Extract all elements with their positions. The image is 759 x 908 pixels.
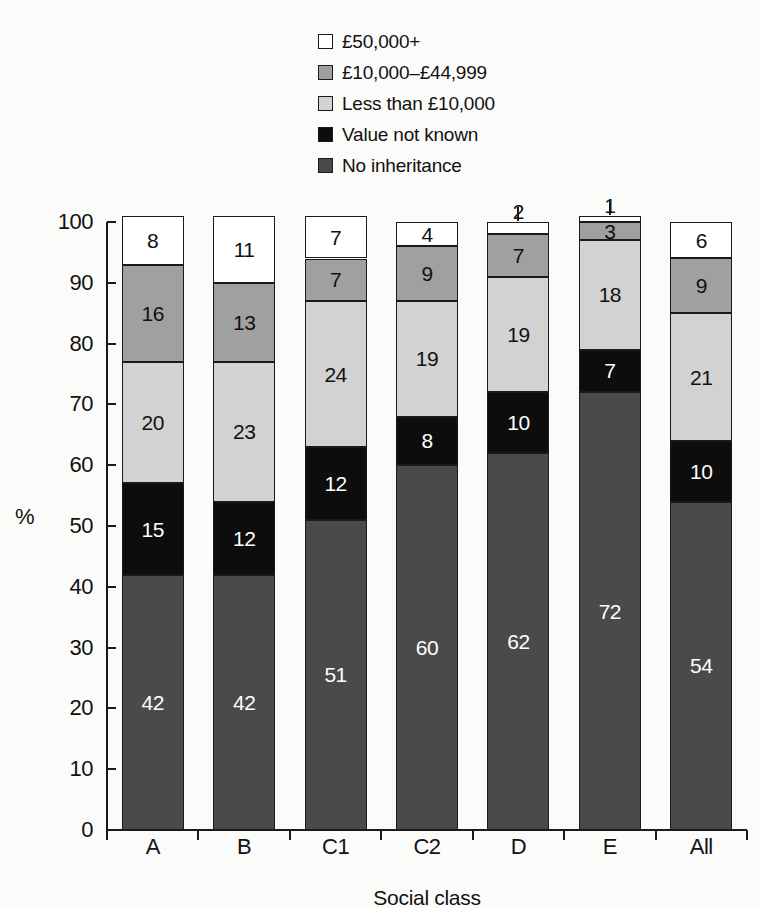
segment-value-label: 60 — [416, 637, 438, 658]
bar-segment: 24 — [305, 301, 367, 447]
bar-segment: 7 — [305, 259, 367, 302]
x-axis-tick — [106, 830, 108, 840]
bar-All: 54102196 — [670, 222, 732, 830]
x-axis-tick — [655, 830, 657, 840]
bar-segment: 2 — [487, 222, 549, 234]
y-tick-label: 40 — [23, 573, 93, 601]
segment-value-label: 12 — [324, 473, 346, 494]
y-tick-mark — [107, 464, 116, 466]
segment-value-label: 6 — [696, 230, 707, 251]
segment-value-label: 51 — [324, 664, 346, 685]
y-tick-mark — [107, 586, 116, 588]
bar-segment: 8 — [122, 216, 184, 265]
bar-segment: 10 — [487, 392, 549, 453]
bar-segment: 9 — [396, 246, 458, 301]
bar-segment: 7 — [487, 234, 549, 277]
y-tick-mark — [107, 525, 116, 527]
bar-segment: 3 — [579, 222, 641, 240]
legend-label: £50,000+ — [342, 32, 420, 51]
segment-value-label: 16 — [142, 303, 164, 324]
legend-swatch-icon — [318, 127, 333, 142]
y-tick-label: 20 — [23, 694, 93, 722]
segment-value-label: 11 — [234, 239, 255, 260]
bar-segment: 19 — [487, 277, 549, 393]
segment-value-label: 9 — [421, 263, 432, 284]
bar-segment: 9 — [670, 258, 732, 313]
bar-segment: 19 — [396, 301, 458, 417]
bar-segment: 7 — [305, 216, 367, 259]
bar-segment: 51 — [305, 520, 367, 830]
segment-value-label: 13 — [233, 312, 255, 333]
legend-item: Value not known — [318, 119, 495, 150]
y-tick-label: 0 — [23, 816, 93, 844]
y-tick-mark — [107, 403, 116, 405]
segment-value-label: 7 — [513, 245, 524, 266]
x-axis-label-C2: C2 — [377, 834, 477, 860]
x-axis-label-B: B — [194, 834, 294, 860]
bar-segment: 18 — [579, 240, 641, 349]
segment-value-label: 21 — [690, 367, 712, 388]
y-tick-mark — [107, 343, 116, 345]
y-tick-label: 30 — [23, 634, 93, 662]
y-tick-mark — [107, 829, 116, 831]
bar-segment: 10 — [670, 441, 732, 502]
segment-value-label: 4 — [421, 224, 432, 245]
segment-value-label: 62 — [507, 631, 529, 652]
x-axis-tick — [197, 830, 199, 840]
x-axis-tick — [472, 830, 474, 840]
segment-value-label: 8 — [147, 230, 158, 251]
segment-value-label: 72 — [599, 601, 621, 622]
bar-segment: 72 — [579, 392, 641, 830]
x-axis-tick — [563, 830, 565, 840]
bar-segment: 13 — [213, 283, 275, 362]
bar-B: 4212231311 — [213, 222, 275, 830]
x-axis-tick — [746, 830, 748, 840]
y-tick-mark — [107, 707, 116, 709]
bar-E: 7271831 — [579, 222, 641, 830]
segment-value-label: 23 — [233, 421, 255, 442]
segment-value-label: 9 — [696, 275, 707, 296]
segment-value-label: 15 — [142, 519, 164, 540]
bar-D: 62101972 — [487, 222, 549, 830]
legend-label: Less than £10,000 — [342, 94, 495, 113]
segment-value-label: 18 — [599, 284, 621, 305]
bar-segment: 42 — [122, 575, 184, 830]
segment-value-label: 20 — [142, 412, 164, 433]
segment-value-label: 10 — [507, 412, 529, 433]
bar-C1: 51122477 — [305, 222, 367, 830]
y-tick-label: 50 — [23, 512, 93, 540]
legend-label: No inheritance — [342, 156, 462, 175]
bar-A: 421520168 — [122, 222, 184, 830]
bar-segment: 60 — [396, 465, 458, 830]
x-axis-tick — [380, 830, 382, 840]
segment-value-label: 42 — [142, 692, 164, 713]
segment-value-label: 1 — [604, 195, 615, 216]
legend-swatch-icon — [318, 96, 333, 111]
segment-value-label: 8 — [421, 430, 432, 451]
x-axis-label-D: D — [468, 834, 568, 860]
bar-segment: 12 — [213, 502, 275, 575]
bar-segment: 15 — [122, 483, 184, 574]
bar-segment: 21 — [670, 313, 732, 441]
bar-segment: 6 — [670, 222, 732, 258]
x-axis-label-A: A — [103, 834, 203, 860]
bar-segment: 20 — [122, 362, 184, 484]
segment-value-label: 12 — [233, 528, 255, 549]
y-tick-label: 60 — [23, 451, 93, 479]
y-tick-label: 70 — [23, 390, 93, 418]
segment-value-label: 3 — [604, 221, 615, 242]
legend-swatch-icon — [318, 34, 333, 49]
bar-segment: 12 — [305, 447, 367, 520]
legend-label: Value not known — [342, 125, 478, 144]
segment-value-label: 7 — [604, 360, 615, 381]
bar-segment: 23 — [213, 362, 275, 502]
segment-value-label: 7 — [330, 269, 341, 290]
segment-value-label: 19 — [416, 348, 438, 369]
y-tick-label: 90 — [23, 269, 93, 297]
x-axis-label-All: All — [651, 834, 751, 860]
y-tick-mark — [107, 768, 116, 770]
x-axis-label-C1: C1 — [286, 834, 386, 860]
legend-swatch-icon — [318, 158, 333, 173]
y-tick-mark — [107, 647, 116, 649]
y-tick-mark — [107, 282, 116, 284]
